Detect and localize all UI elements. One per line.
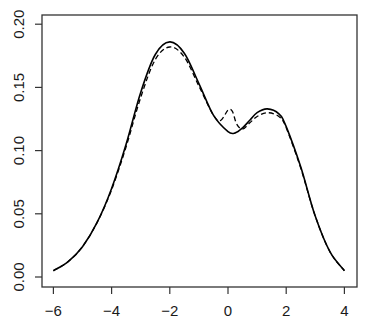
y-axis: 0.000.050.100.150.20 (10, 10, 42, 292)
solid-density-line (53, 42, 344, 271)
density-chart: −6−4−2024 0.000.050.100.150.20 (0, 0, 366, 330)
plot-frame (42, 15, 357, 287)
y-tick-label: 0.05 (10, 199, 27, 228)
x-axis: −6−4−2024 (45, 287, 349, 319)
x-tick-label: 4 (340, 302, 348, 319)
x-tick-label: −4 (103, 302, 120, 319)
x-tick-label: −2 (161, 302, 178, 319)
y-tick-label: 0.00 (10, 262, 27, 291)
y-tick-label: 0.10 (10, 136, 27, 165)
x-tick-label: 2 (282, 302, 290, 319)
y-tick-label: 0.20 (10, 10, 27, 39)
x-tick-label: 0 (224, 302, 232, 319)
x-tick-label: −6 (45, 302, 62, 319)
y-tick-label: 0.15 (10, 73, 27, 102)
series-group (53, 42, 344, 271)
dashed-density-line (53, 47, 344, 271)
